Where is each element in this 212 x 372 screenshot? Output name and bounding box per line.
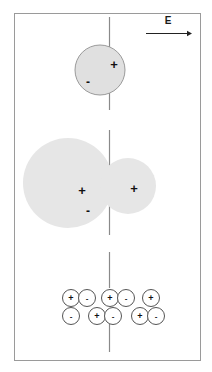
charge-sign-positive-ion: + xyxy=(68,293,73,303)
charge-sign-negative-blob: - xyxy=(86,204,90,218)
charge-sign-positive-blob: + xyxy=(78,183,86,198)
ion-positive: + xyxy=(132,308,149,325)
merged-blob-left-lobe xyxy=(23,138,113,228)
charge-sign-negative-top-sphere: - xyxy=(86,75,90,89)
ion-positive: + xyxy=(143,290,160,307)
ion-row-top: +-+-+ xyxy=(63,290,160,307)
ion-negative: - xyxy=(118,290,135,307)
ion-positive: + xyxy=(89,308,106,325)
charge-sign-positive-ion: + xyxy=(137,311,142,321)
ion-positive: + xyxy=(63,290,80,307)
charge-sign-positive-top-sphere: + xyxy=(110,57,118,72)
charge-sign-positive-ion: + xyxy=(107,293,112,303)
charge-sign-negative-ion: - xyxy=(155,312,158,321)
charge-sign-negative-ion: - xyxy=(70,312,73,321)
charge-sign-negative-ion: - xyxy=(112,312,115,321)
ion-negative: - xyxy=(148,308,165,325)
charge-sign-negative-ion: - xyxy=(86,294,89,303)
ion-negative: - xyxy=(63,308,80,325)
ion-positive: + xyxy=(102,290,119,307)
charge-sign-positive-ion: + xyxy=(94,311,99,321)
charge-sign-positive-ion: + xyxy=(148,293,153,303)
diagram-canvas: E +-++- +-+-+-+-+- xyxy=(0,0,212,372)
charge-sign-positive-blob: + xyxy=(130,181,138,196)
ion-negative: - xyxy=(105,308,122,325)
charge-sign-negative-ion: - xyxy=(125,294,128,303)
physics-diagram-figure: E +-++- +-+-+-+-+- xyxy=(0,0,212,372)
electric-field-label: E xyxy=(165,15,172,26)
merged-blob-right-lobe xyxy=(100,158,156,214)
ion-negative: - xyxy=(79,290,96,307)
